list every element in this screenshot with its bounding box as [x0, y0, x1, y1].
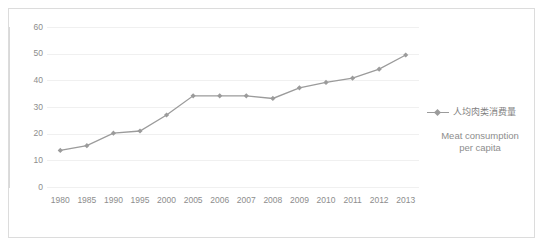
legend-line-marker-icon	[427, 108, 449, 117]
x-axis-tick-label: 2013	[396, 195, 415, 205]
legend-caption-line2: per capita	[427, 142, 533, 154]
legend-entry-meat-consumption: 人均肉类消费量	[427, 107, 535, 118]
x-axis-tick-label: 2005	[184, 195, 203, 205]
x-axis-tick-label: 2000	[157, 195, 176, 205]
x-axis-tick-label: 1985	[77, 195, 96, 205]
data-point-marker	[244, 93, 249, 98]
data-point-marker	[377, 67, 382, 72]
x-axis-tick-label: 2012	[370, 195, 389, 205]
x-axis-tick-label: 2011	[343, 195, 361, 205]
chart-figure: 0102030405060 19801985199019952000200520…	[8, 8, 535, 238]
data-point-marker	[297, 85, 302, 90]
data-point-marker	[403, 52, 408, 57]
data-point-marker	[84, 143, 89, 148]
data-point-marker	[350, 76, 355, 81]
x-axis-tick-label: 2006	[210, 195, 229, 205]
data-point-marker	[58, 148, 63, 153]
x-axis-tick-labels: 1980198519901995200020052006200720082009…	[47, 195, 419, 209]
x-axis-tick-label: 2009	[290, 195, 309, 205]
legend-caption-line1: Meat consumption	[427, 130, 533, 142]
series-line	[60, 55, 405, 150]
x-axis-tick-label: 1980	[51, 195, 70, 205]
legend-label-chinese: 人均肉类消费量	[453, 107, 516, 118]
data-point-marker	[323, 80, 328, 85]
x-axis-tick-label: 2010	[317, 195, 336, 205]
chart-legend: 人均肉类消费量 Meat consumption per capita	[427, 107, 535, 154]
data-point-marker	[270, 96, 275, 101]
data-point-marker	[111, 131, 116, 136]
chart-plot-container: 0102030405060 19801985199019952000200520…	[9, 9, 536, 239]
x-axis-tick-label: 2007	[237, 195, 256, 205]
x-axis-tick-label: 2008	[263, 195, 282, 205]
data-point-marker	[217, 93, 222, 98]
x-axis-tick-label: 1995	[131, 195, 150, 205]
x-axis-tick-label: 1990	[104, 195, 123, 205]
legend-caption-english: Meat consumption per capita	[427, 130, 533, 154]
